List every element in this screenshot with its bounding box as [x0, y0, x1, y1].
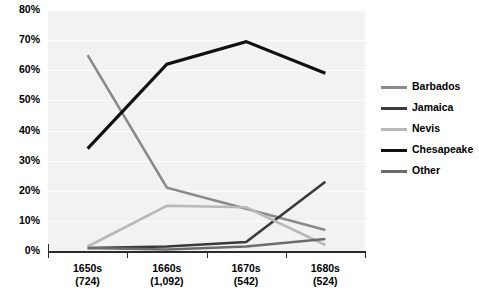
x-axis-tick-label: 1650s(724) — [43, 262, 133, 288]
y-axis-tick-label: 10% — [0, 214, 40, 226]
legend-label: Chesapeake — [412, 141, 473, 158]
x-axis-tick-label-count: (524) — [280, 275, 370, 288]
x-axis-tick-label-decade: 1660s — [152, 262, 181, 274]
x-axis-tick-label-decade: 1650s — [73, 262, 102, 274]
series-line-barbados — [88, 55, 326, 230]
x-axis-tick-label: 1670s(542) — [201, 262, 291, 288]
legend-item-barbados[interactable]: Barbados — [381, 78, 479, 99]
legend-swatch-icon — [381, 107, 407, 110]
x-axis-tick-label: 1680s(524) — [280, 262, 370, 288]
legend-item-other[interactable]: Other — [381, 162, 479, 183]
y-axis-tick-label: 40% — [0, 124, 40, 136]
y-axis-tick-label: 30% — [0, 154, 40, 166]
x-axis-tick-label: 1660s(1,092) — [122, 262, 212, 288]
x-axis-tick-label-decade: 1680s — [311, 262, 340, 274]
series-lines — [48, 10, 365, 251]
y-axis-tick-label: 70% — [0, 33, 40, 45]
y-axis-tick-label: 50% — [0, 93, 40, 105]
legend-label: Barbados — [412, 78, 460, 95]
x-axis-tick-label-count: (542) — [201, 275, 291, 288]
x-axis-tick-label-decade: 1670s — [232, 262, 261, 274]
legend-label: Other — [412, 162, 440, 179]
legend-item-chesapeake[interactable]: Chesapeake — [381, 141, 479, 162]
legend-item-jamaica[interactable]: Jamaica — [381, 99, 479, 120]
series-line-jamaica — [88, 182, 326, 248]
y-axis-tick-label: 80% — [0, 3, 40, 15]
legend-swatch-icon — [381, 128, 407, 131]
legend-swatch-icon — [381, 149, 407, 152]
y-axis-tick-label: 60% — [0, 63, 40, 75]
legend-label: Nevis — [412, 120, 440, 137]
series-line-chesapeake — [88, 42, 326, 149]
x-axis-tick — [48, 251, 49, 258]
x-axis-tick — [365, 251, 366, 258]
y-axis-tick-label: 0% — [0, 244, 40, 256]
series-line-nevis — [88, 206, 326, 247]
x-axis-tick — [127, 251, 128, 258]
y-axis-tick-label: 20% — [0, 184, 40, 196]
x-axis-tick-label-count: (1,092) — [122, 275, 212, 288]
x-axis-tick-label-count: (724) — [43, 275, 133, 288]
legend: BarbadosJamaicaNevisChesapeakeOther — [381, 78, 479, 183]
x-axis-tick — [286, 251, 287, 258]
legend-label: Jamaica — [412, 99, 453, 116]
legend-swatch-icon — [381, 170, 407, 173]
legend-item-nevis[interactable]: Nevis — [381, 120, 479, 141]
x-axis-tick — [207, 251, 208, 258]
legend-swatch-icon — [381, 86, 407, 89]
line-chart: 80%70%60%50%40%30%20%10%0% 1650s(724)166… — [0, 0, 479, 305]
